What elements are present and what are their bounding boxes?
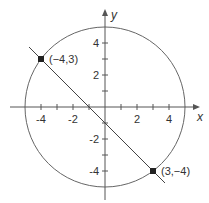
x-tick-label: 2 [134, 113, 140, 125]
y-tick-label: 4 [93, 37, 99, 49]
y-axis-arrow-icon [102, 9, 108, 16]
x-axis-label: x [196, 110, 204, 124]
point-label: (3,−4) [161, 165, 190, 177]
y-tick-label: -2 [89, 133, 99, 145]
point-marker-icon [150, 168, 156, 174]
y-tick-label: -4 [89, 165, 99, 177]
y-axis-label: y [110, 8, 118, 22]
x-tick-label: -4 [36, 113, 46, 125]
point-marker-icon [38, 56, 44, 62]
x-tick-label: 4 [166, 113, 172, 125]
circle-line-diagram: -4 -2 2 4 4 2 -2 -4 x y (−4,3) (3,−4) [0, 0, 209, 203]
x-tick-label: -2 [68, 113, 78, 125]
y-tick-label: 2 [93, 69, 99, 81]
line [29, 47, 165, 183]
point-label: (−4,3) [49, 53, 78, 65]
